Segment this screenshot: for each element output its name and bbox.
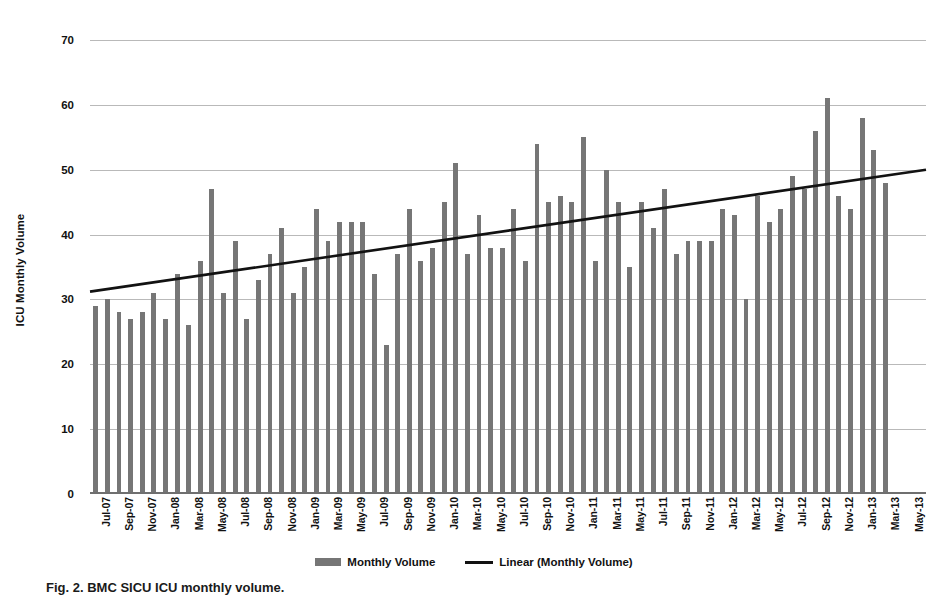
y-tick-label: 60	[61, 99, 74, 111]
x-tick-label: Sep-10	[541, 497, 553, 531]
y-axis-ticks: 010203040506070	[0, 40, 82, 494]
x-tick-label: May-13	[913, 497, 925, 532]
x-tick-label: Sep-07	[123, 497, 135, 531]
x-tick-label: Nov-09	[425, 497, 437, 531]
x-tick-label: Jul-11	[657, 497, 669, 526]
x-tick-label: Nov-10	[564, 497, 576, 531]
y-tick-label: 70	[61, 34, 74, 46]
x-tick-label: Sep-08	[262, 497, 274, 531]
y-tick-label: 30	[61, 293, 74, 305]
x-tick-label: Jul-08	[239, 497, 251, 527]
x-tick-label: Sep-11	[680, 497, 692, 530]
x-axis-labels: Jul-07Sep-07Nov-07Jan-08Mar-08May-08Jul-…	[90, 497, 926, 559]
x-tick-label: Jan-08	[169, 497, 181, 530]
x-tick-label: Jan-10	[448, 497, 460, 530]
x-tick-label: Mar-09	[332, 497, 344, 530]
x-tick-label: Jul-12	[796, 497, 808, 527]
x-tick-label: Jul-07	[100, 497, 112, 527]
x-tick-label: Mar-08	[193, 497, 205, 530]
x-tick-label: Mar-12	[750, 497, 762, 530]
figure-caption: Fig. 2. BMC SICU ICU monthly volume.	[46, 580, 284, 595]
chart-legend: Monthly VolumeLinear (Monthly Volume)	[0, 556, 948, 568]
y-tick-label: 20	[61, 358, 74, 370]
legend-item: Linear (Monthly Volume)	[465, 556, 632, 568]
x-tick-label: Mar-10	[471, 497, 483, 530]
x-tick-label: May-08	[216, 497, 228, 532]
x-tick-label: Nov-11	[704, 497, 716, 531]
x-tick-label: Mar-13	[889, 497, 901, 530]
x-tick-label: Jul-09	[378, 497, 390, 527]
y-tick-label: 40	[61, 229, 74, 241]
x-tick-label: Jul-10	[518, 497, 530, 527]
x-tick-label: Nov-12	[843, 497, 855, 531]
x-tick-label: Sep-09	[402, 497, 414, 531]
x-tick-label: Jan-13	[866, 497, 878, 530]
bar-swatch-icon	[315, 558, 341, 566]
y-tick-label: 10	[61, 423, 74, 435]
x-tick-label: May-10	[495, 497, 507, 532]
x-tick-label: Nov-07	[146, 497, 158, 531]
x-tick-label: Jan-09	[309, 497, 321, 530]
legend-label: Monthly Volume	[347, 556, 435, 568]
x-tick-label: May-11	[634, 497, 646, 531]
x-axis-baseline	[90, 492, 926, 494]
y-tick-label: 50	[61, 164, 74, 176]
x-tick-label: Nov-08	[286, 497, 298, 531]
x-tick-label: Sep-12	[820, 497, 832, 531]
plot-area	[90, 40, 926, 494]
line-swatch-icon	[465, 561, 493, 564]
legend-item: Monthly Volume	[315, 556, 435, 568]
x-tick-label: Mar-11	[611, 497, 623, 530]
x-tick-label: Jan-12	[727, 497, 739, 530]
y-tick-label: 0	[68, 488, 74, 500]
x-tick-label: Jan-11	[587, 497, 599, 529]
x-tick-label: May-09	[355, 497, 367, 532]
x-tick-label: May-12	[773, 497, 785, 532]
legend-label: Linear (Monthly Volume)	[499, 556, 632, 568]
trendline	[90, 40, 926, 494]
